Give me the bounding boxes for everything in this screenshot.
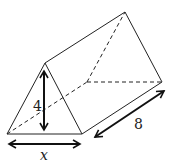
bottom-right-edge: [82, 82, 162, 134]
hidden-back-left-edge: [87, 12, 125, 82]
base-label: x: [40, 147, 48, 162]
height-label: 4: [33, 98, 42, 114]
hidden-bottom-left-edge: [7, 82, 87, 134]
length-arrow-icon: [95, 91, 164, 137]
triangular-prism-diagram: 4 x 8: [0, 0, 171, 162]
length-label: 8: [134, 116, 143, 132]
top-ridge-edge: [45, 12, 125, 63]
back-right-edge: [125, 12, 162, 82]
